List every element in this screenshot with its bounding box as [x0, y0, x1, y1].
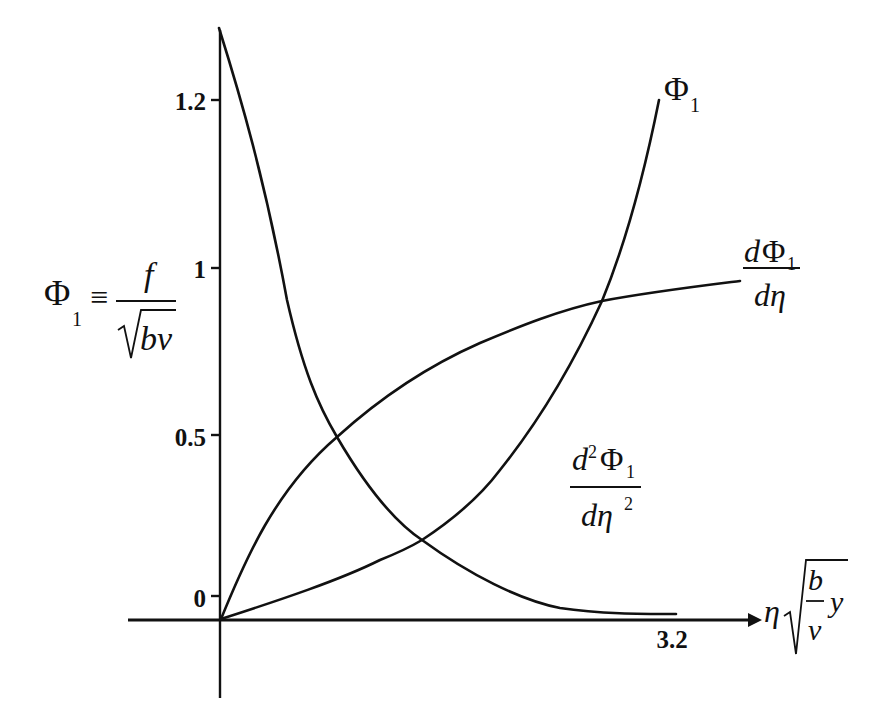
- svg-text:2: 2: [588, 442, 597, 462]
- svg-text:Φ: Φ: [44, 273, 70, 313]
- y-tick-label-1.2: 1.2: [175, 88, 206, 115]
- y-tick-label-0: 0: [194, 585, 207, 612]
- svg-text:Φ: Φ: [762, 233, 785, 269]
- svg-text:y: y: [827, 585, 844, 618]
- svg-text:≡: ≡: [90, 279, 108, 315]
- svg-text:Φ: Φ: [600, 441, 623, 477]
- x-tick-label-3.2: 3.2: [656, 626, 687, 653]
- x-axis-arrowhead-icon: [748, 613, 762, 627]
- tick-labels: 1.2 1 0.5 0 3.2: [175, 88, 688, 653]
- svg-text:1: 1: [626, 462, 635, 482]
- label-dphi-deta: d Φ 1 dη: [743, 233, 800, 313]
- x-axis-label: η b ν y: [764, 560, 848, 654]
- svg-text:dη: dη: [754, 277, 786, 313]
- curves: [219, 28, 740, 619]
- svg-text:bν: bν: [140, 320, 173, 357]
- svg-text:d: d: [572, 441, 589, 477]
- svg-text:b: b: [808, 563, 823, 596]
- svg-text:dη: dη: [581, 497, 613, 533]
- y-axis-label: Φ 1 ≡ f bν: [44, 256, 176, 358]
- svg-text:1: 1: [690, 94, 700, 116]
- svg-text:2: 2: [624, 494, 633, 514]
- svg-text:d: d: [744, 233, 761, 269]
- label-d2phi-deta2: d 2 Φ 1 dη 2: [570, 441, 641, 533]
- svg-text:ν: ν: [808, 613, 822, 646]
- svg-text:Φ: Φ: [664, 70, 689, 107]
- svg-text:f: f: [144, 256, 158, 293]
- y-tick-label-0.5: 0.5: [175, 424, 206, 451]
- curve-dphi: [221, 281, 740, 619]
- svg-text:1: 1: [787, 254, 796, 274]
- curve-phi: [221, 100, 659, 619]
- axes: [128, 30, 762, 698]
- svg-text:1: 1: [72, 308, 82, 330]
- svg-text:η: η: [764, 593, 780, 629]
- y-tick-label-1: 1: [194, 256, 207, 283]
- chart: 1.2 1 0.5 0 3.2 Φ 1 d Φ 1 dη d 2 Φ 1 dη …: [0, 0, 889, 726]
- label-phi: Φ 1: [664, 70, 700, 116]
